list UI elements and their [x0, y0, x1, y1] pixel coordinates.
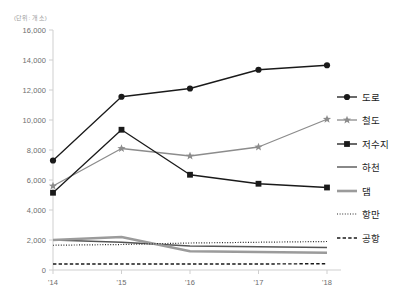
chart-legend: 도로철도저수지하천댐항만공항	[336, 85, 420, 250]
legend-marker	[343, 116, 351, 124]
legend-label: 도로	[362, 90, 380, 104]
legend-item-항만[interactable]: 항만	[336, 203, 420, 227]
data-point	[255, 67, 261, 73]
legend-label: 저수지	[362, 137, 389, 151]
legend-label: 하천	[362, 160, 380, 174]
data-point	[254, 143, 262, 151]
square-line-marker-icon	[336, 138, 358, 150]
series-line	[53, 242, 327, 246]
star-line-marker-icon	[336, 114, 358, 126]
series-하천	[53, 240, 327, 248]
dashed-line-marker-icon	[336, 232, 358, 244]
legend-item-철도[interactable]: 철도	[336, 109, 420, 133]
line-chart: (단위: 개소) 02,0004,0006,0008,00010,00012,0…	[0, 0, 420, 299]
legend-item-저수지[interactable]: 저수지	[336, 132, 420, 156]
series-line	[53, 130, 327, 193]
series-line	[53, 240, 327, 248]
legend-label: 공항	[362, 231, 380, 245]
legend-marker	[344, 141, 350, 147]
data-point	[118, 94, 124, 100]
data-point	[324, 185, 330, 191]
series-line	[53, 237, 327, 253]
legend-marker	[344, 94, 350, 100]
data-point	[187, 85, 193, 91]
series-철도	[49, 115, 331, 190]
data-point	[117, 144, 125, 152]
legend-item-댐[interactable]: 댐	[336, 179, 420, 203]
data-point	[256, 181, 262, 187]
data-point	[187, 172, 193, 178]
series-도로	[50, 62, 330, 163]
dotted-line-marker-icon	[336, 208, 358, 220]
solid-line-marker-icon	[336, 161, 358, 173]
data-point	[186, 152, 194, 160]
series-저수지	[50, 127, 330, 196]
legend-label: 댐	[362, 184, 371, 198]
legend-label: 철도	[362, 113, 380, 127]
circle-line-marker-icon	[336, 91, 358, 103]
legend-item-도로[interactable]: 도로	[336, 85, 420, 109]
legend-item-하천[interactable]: 하천	[336, 156, 420, 180]
data-point	[119, 127, 125, 133]
legend-item-공항[interactable]: 공항	[336, 226, 420, 250]
data-point	[324, 62, 330, 68]
legend-label: 항만	[362, 207, 380, 221]
series-항만	[53, 242, 327, 246]
data-point	[323, 115, 331, 123]
series-댐	[53, 237, 327, 253]
series-line	[53, 65, 327, 160]
thick-gray-line-marker-icon	[336, 185, 358, 197]
data-point	[50, 190, 56, 196]
data-point	[50, 157, 56, 163]
